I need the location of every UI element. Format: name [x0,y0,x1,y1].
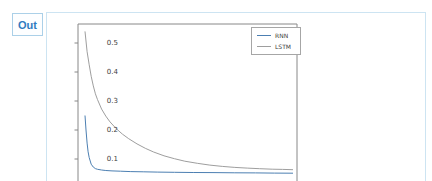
y-tick-label: 0.2 [96,126,118,135]
y-tick-label: 0.4 [96,68,118,77]
legend-label: LSTM [275,43,291,50]
out-label: Out [18,19,37,31]
y-tick-label: 0.3 [96,97,118,106]
y-tick-label: 0.5 [96,39,118,48]
output-cell: 0.10.20.30.40.5 RNNLSTM [46,12,426,181]
legend-entry-lstm: LSTM [257,43,296,50]
y-tick-label: 0.1 [96,155,118,164]
out-label-badge: Out [12,13,43,36]
legend-label: RNN [275,32,288,39]
figure: 0.10.20.30.40.5 RNNLSTM [47,13,425,181]
rnn-curve [85,116,293,174]
rnn-line-swatch [257,35,271,36]
chart-legend: RNNLSTM [251,27,301,55]
lstm-line-swatch [257,46,271,47]
legend-entry-rnn: RNN [257,32,296,39]
